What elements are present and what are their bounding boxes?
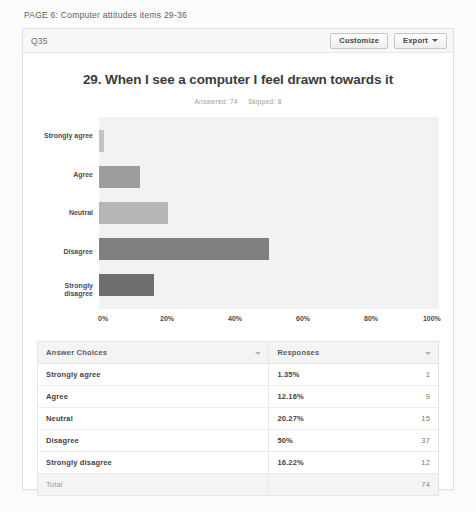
cell-answer-choice: Strongly agree xyxy=(38,364,269,386)
table-row: Agree12.16%9 xyxy=(38,386,438,408)
cell-response-count: 12 xyxy=(353,452,438,474)
bar-row xyxy=(99,123,439,159)
table-header-row: Answer Choices Responses xyxy=(38,342,438,364)
chart-bar xyxy=(99,202,168,224)
x-axis-tick-label: 20% xyxy=(160,315,174,322)
chart-title: 29. When I see a computer I feel drawn t… xyxy=(65,71,411,88)
x-axis-tick-label: 60% xyxy=(296,315,310,322)
x-axis-tick-label: 80% xyxy=(364,315,378,322)
y-axis-tick-label: Strongly disagree xyxy=(37,271,93,309)
toolbar-actions: Customize Export xyxy=(330,33,447,49)
export-button[interactable]: Export xyxy=(394,33,447,49)
cell-response-percent: 50% xyxy=(269,430,354,452)
cell-total-label: Total xyxy=(38,474,269,496)
chart-bar xyxy=(99,238,269,260)
cell-response-count: 37 xyxy=(353,430,438,452)
chart-bar xyxy=(99,166,140,188)
customize-button[interactable]: Customize xyxy=(330,33,388,49)
column-header-responses-label: Responses xyxy=(277,348,319,357)
chart-y-axis: Strongly agreeAgreeNeutralDisagreeStrong… xyxy=(37,117,99,309)
export-button-label: Export xyxy=(403,37,428,45)
chart-plot-area xyxy=(99,117,439,309)
page-heading: PAGE 6: Computer attitudes items 29-36 xyxy=(24,10,187,20)
cell-answer-choice: Neutral xyxy=(38,408,269,430)
chart-x-axis: 0%20%40%60%80%100% xyxy=(99,309,439,327)
table-total-row: Total74 xyxy=(38,474,438,496)
y-axis-tick-label: Neutral xyxy=(37,194,93,232)
y-axis-tick-label: Strongly agree xyxy=(37,117,93,155)
chart-block: 29. When I see a computer I feel drawn t… xyxy=(23,53,453,327)
chart-plot: Strongly agreeAgreeNeutralDisagreeStrong… xyxy=(37,117,439,309)
sort-caret-icon[interactable] xyxy=(255,352,261,355)
cell-total-count: 74 xyxy=(353,474,438,496)
bar-row xyxy=(99,267,439,303)
table-row: Disagree50%37 xyxy=(38,430,438,452)
x-axis-tick-label: 0% xyxy=(98,315,108,322)
cell-response-percent: 16.22% xyxy=(269,452,354,474)
skipped-count: Skipped: 8 xyxy=(248,98,282,105)
cell-answer-choice: Strongly disagree xyxy=(38,452,269,474)
bar-row xyxy=(99,195,439,231)
x-axis-tick-label: 40% xyxy=(228,315,242,322)
x-axis-tick-label: 100% xyxy=(423,315,441,322)
cell-response-count: 15 xyxy=(353,408,438,430)
column-header-responses[interactable]: Responses xyxy=(269,342,438,364)
question-number-label: Q35 xyxy=(31,36,48,46)
table-row: Strongly disagree16.22%12 xyxy=(38,452,438,474)
y-axis-tick-label: Agree xyxy=(37,156,93,194)
column-header-answer-choices[interactable]: Answer Choices xyxy=(38,342,269,364)
chart-response-meta: Answered: 74 Skipped: 8 xyxy=(37,98,439,105)
cell-response-percent: 1.35% xyxy=(269,364,354,386)
sort-caret-icon[interactable] xyxy=(425,352,431,355)
bar-row xyxy=(99,159,439,195)
cell-response-percent: 12.16% xyxy=(269,386,354,408)
chart-bar xyxy=(99,274,154,296)
card-toolbar: Q35 Customize Export xyxy=(23,29,453,53)
table-body: Strongly agree1.35%1Agree12.16%9Neutral2… xyxy=(38,364,438,496)
cell-total-percent xyxy=(269,474,354,496)
table-row: Strongly agree1.35%1 xyxy=(38,364,438,386)
chart-bar xyxy=(99,130,104,152)
question-card: Q35 Customize Export 29. When I see a co… xyxy=(22,28,454,490)
cell-answer-choice: Agree xyxy=(38,386,269,408)
cell-answer-choice: Disagree xyxy=(38,430,269,452)
y-axis-tick-label: Disagree xyxy=(37,232,93,270)
cell-response-count: 1 xyxy=(353,364,438,386)
chevron-down-icon xyxy=(432,39,438,42)
answered-count: Answered: 74 xyxy=(194,98,237,105)
responses-table: Answer Choices Responses Strongly agree1… xyxy=(37,341,439,496)
table-row: Neutral20.27%15 xyxy=(38,408,438,430)
column-header-answer-choices-label: Answer Choices xyxy=(46,348,107,357)
customize-button-label: Customize xyxy=(339,37,379,45)
bar-row xyxy=(99,231,439,267)
cell-response-percent: 20.27% xyxy=(269,408,354,430)
cell-response-count: 9 xyxy=(353,386,438,408)
